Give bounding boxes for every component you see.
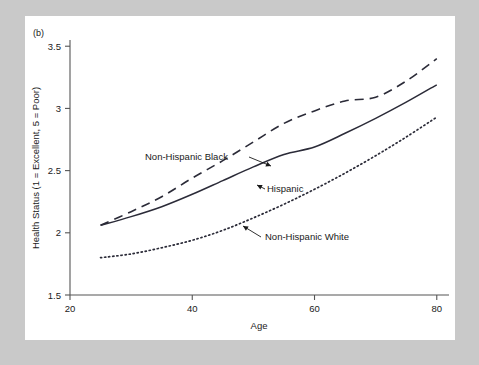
- y-axis-ticks: 1.522.533.5: [48, 41, 70, 301]
- annotation-label-non-hispanic-black: Non-Hispanic Black: [145, 151, 228, 162]
- y-tick-label: 2: [56, 227, 61, 238]
- y-tick-label: 3: [56, 103, 61, 114]
- chart-axes: [70, 40, 449, 295]
- y-axis-title: Health Status (1 = Excellent, 5 = Poor): [30, 87, 41, 249]
- annotation-label-non-hispanic-white: Non-Hispanic White: [265, 231, 349, 242]
- y-tick-label: 1.5: [48, 290, 61, 301]
- y-tick-label: 3.5: [48, 41, 61, 52]
- figure-frame: (b) 1.522.533.5 20406080 Age Health Stat…: [0, 0, 479, 365]
- x-tick-label: 80: [431, 303, 442, 314]
- x-tick-label: 40: [187, 303, 198, 314]
- x-axis-title: Age: [251, 320, 268, 331]
- series-line-non-hispanic-black: [101, 59, 437, 226]
- x-tick-label: 20: [65, 303, 76, 314]
- x-axis-ticks: 20406080: [65, 295, 442, 314]
- chart-panel: (b) 1.522.533.5 20406080 Age Health Stat…: [25, 16, 455, 340]
- y-tick-label: 2.5: [48, 165, 61, 176]
- annotation-label-hispanic: Hispanic: [267, 183, 304, 194]
- chart-annotations: Non-Hispanic BlackHispanicNon-Hispanic W…: [145, 151, 349, 242]
- health-status-by-age-line-chart: 1.522.533.5 20406080 Age Health Status (…: [25, 16, 455, 340]
- x-tick-label: 60: [309, 303, 320, 314]
